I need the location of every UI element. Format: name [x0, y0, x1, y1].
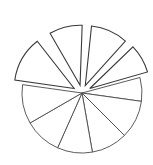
pie-chart-figure: [0, 0, 153, 165]
pie-slice-group: [15, 25, 148, 153]
pie-chart-canvas: [0, 0, 153, 165]
